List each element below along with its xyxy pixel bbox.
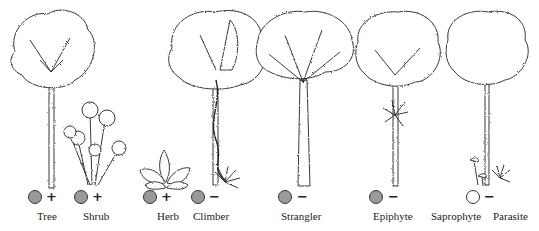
- marker-epiphyte: [369, 190, 383, 204]
- marker-herb: [143, 190, 157, 204]
- label-climber: Climber: [193, 210, 229, 222]
- label-epiphyte: Epiphyte: [373, 210, 413, 222]
- sign-strangler: −: [297, 190, 308, 204]
- label-parasite: Parasite: [493, 210, 528, 222]
- herb-drawing: [140, 150, 190, 189]
- sign-shrub: +: [92, 190, 103, 204]
- climber-drawing: [169, 10, 266, 188]
- label-shrub: Shrub: [83, 210, 109, 222]
- saprophyte-parasite-drawing: [446, 11, 528, 186]
- life-forms-diagram: + Tree + Shrub + Herb − Climber − Strang…: [0, 0, 539, 231]
- label-strangler: Strangler: [281, 210, 321, 222]
- label-saprophyte: Saprophyte: [431, 210, 481, 222]
- sign-tree: +: [46, 190, 57, 204]
- label-tree: Tree: [37, 210, 57, 222]
- strangler-drawing: [256, 11, 353, 186]
- marker-climber: [191, 190, 205, 204]
- marker-shrub: [74, 190, 88, 204]
- epiphyte-drawing: [356, 11, 441, 186]
- shrub-drawing: [64, 102, 126, 185]
- sign-herb: +: [161, 190, 172, 204]
- tree-drawing: [11, 10, 94, 188]
- sign-climber: −: [209, 190, 220, 204]
- sign-saprophyte: −: [484, 190, 495, 204]
- marker-saprophyte: [466, 190, 480, 204]
- label-herb: Herb: [157, 210, 179, 222]
- marker-strangler: [278, 190, 292, 204]
- marker-tree: [28, 190, 42, 204]
- sign-epiphyte: −: [388, 190, 399, 204]
